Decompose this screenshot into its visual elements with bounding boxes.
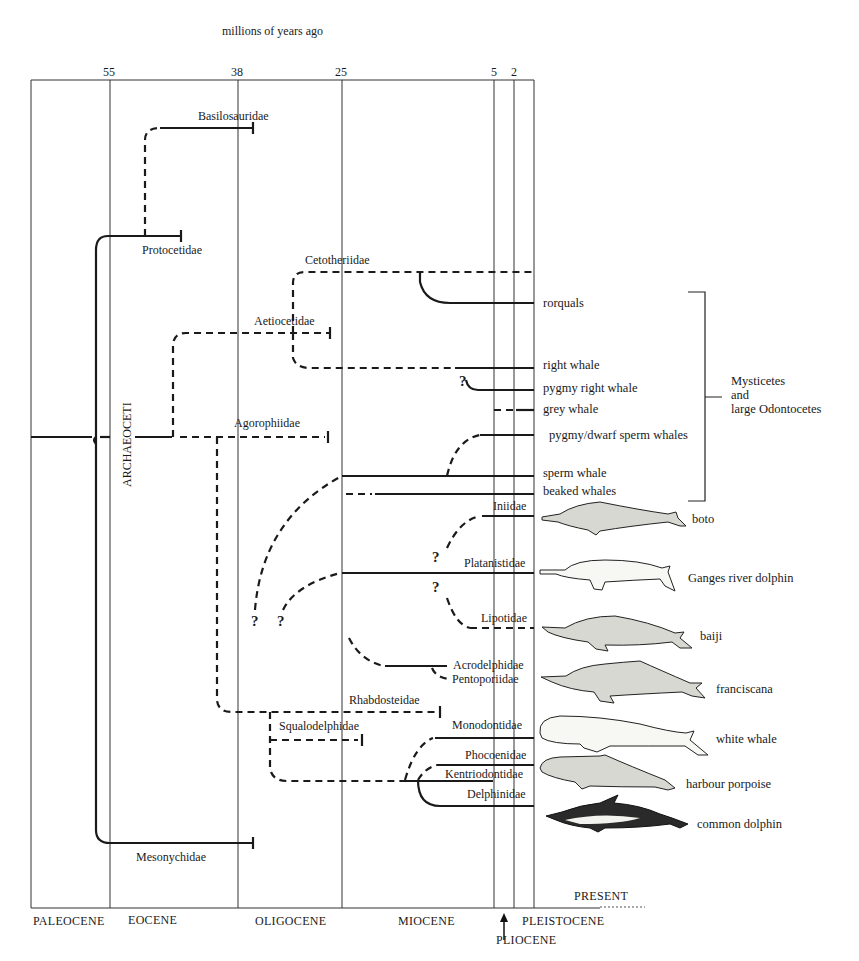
label-platanistidae: Platanistidae [464,556,525,570]
epoch-miocene: MIOCENE [398,914,455,928]
uncertain-mark: ? [277,613,285,629]
label-iniidae: Iniidae [493,499,526,513]
group-label-and: and [731,388,750,402]
label-aetiocetidae: Aetiocetidae [254,314,315,328]
epoch-paleocene: PALEOCENE [33,914,105,928]
harbour-porpoise-illustration [540,755,675,790]
label-pygmy-right-whale: pygmy right whale [543,381,638,395]
white-whale-illustration [540,716,708,755]
label-acrodelphidae: Acrodelphidae [453,658,524,672]
label-grey-whale: grey whale [543,402,599,416]
label-right-whale: right whale [543,358,600,372]
epoch-pleistocene: PLEISTOCENE [522,914,604,928]
species-label-franciscana: franciscana [716,682,773,696]
label-sperm-whale: sperm whale [543,466,607,480]
tick-5: 5 [491,65,497,79]
group-label-mysticetes: Mysticetes [731,374,785,388]
label-rhabdosteidae: Rhabdosteidae [349,693,420,707]
mysticete-lineages [173,272,534,437]
epoch-oligocene: OLIGOCENE [255,914,326,928]
baiji-illustration [542,616,692,651]
ganges-river-dolphin-illustration [540,560,675,591]
label-phocoenidae: Phocoenidae [465,748,526,762]
label-pentoporiidae: Pentoporiidae [452,672,519,686]
uncertain-mark: ? [432,549,440,565]
label-lipotidae: Lipotidae [481,611,527,625]
epoch-eocene: EOCENE [128,913,177,927]
tick-55: 55 [103,65,115,79]
franciscana-illustration [541,661,705,703]
label-kentriodontidae: Kentriodontidae [445,767,523,781]
uncertain-mark: ? [459,373,467,389]
label-squalodelphidae: Squalodelphidae [279,719,359,733]
group-label-large-odontocetes: large Odontocetes [731,402,821,416]
mysticetes-bracket [688,292,722,501]
tick-38: 38 [231,65,243,79]
label-pygmy-dwarf-sperm-whales: pygmy/dwarf sperm whales [549,428,688,442]
tick-25: 25 [335,65,347,79]
species-label-boto: boto [692,512,714,526]
label-delphinidae: Delphinidae [467,787,526,801]
label-protocetidae: Protocetidae [142,243,202,257]
label-basilosauridae: Basilosauridae [198,109,269,123]
boto-illustration [542,502,686,535]
uncertain-mark: ? [251,613,259,629]
group-label-archaeoceti: ARCHAEOCETI [120,402,134,487]
label-monodontidae: Monodontidae [452,718,522,732]
tick-2: 2 [511,65,517,79]
label-agorophiidae: Agorophiidae [234,416,300,430]
common-dolphin-illustration [546,795,688,832]
label-rorquals: rorquals [543,296,584,310]
label-cetotheriidae: Cetotheriidae [305,253,370,267]
epoch-pliocene: PLIOCENE [496,933,556,947]
axis-title: millions of years ago [222,24,323,38]
uncertain-mark: ? [432,579,440,595]
species-label-common-dolphin: common dolphin [697,817,783,831]
label-mesonychidae: Mesonychidae [136,850,206,864]
present-label: PRESENT [574,889,628,903]
species-label-harbour-porpoise: harbour porpoise [686,777,771,791]
label-beaked-whales: beaked whales [543,484,616,498]
species-label-white-whale: white whale [716,732,777,746]
cetacean-phylogeny-diagram: millions of years ago 55 38 25 5 2 [0,0,859,961]
species-label-ganges-river-dolphin: Ganges river dolphin [688,571,794,585]
archaeoceti-lineages [31,122,253,849]
species-label-baiji: baiji [700,629,723,643]
